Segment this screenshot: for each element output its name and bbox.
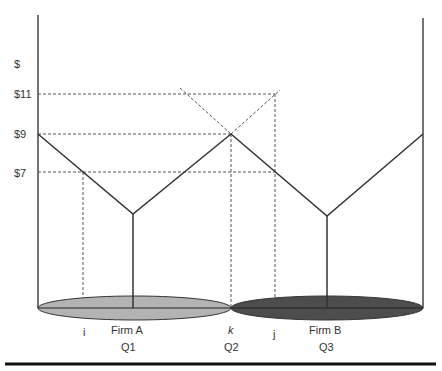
firm-b-left-arm-extension — [180, 88, 231, 134]
label-j: j — [272, 328, 275, 340]
firm-a-price-schedule — [38, 134, 231, 214]
y-axis-label: $ — [14, 58, 20, 70]
firm-b-price-schedule — [231, 134, 423, 216]
price-label-7: $7 — [14, 167, 26, 179]
spatial-competition-diagram: $ $11 $9 $7 i Firm A k j Firm B Q1 Q2 Q3 — [0, 0, 442, 371]
label-q1: Q1 — [121, 341, 136, 353]
firm-a-right-arm-extension — [231, 90, 280, 134]
label-q2: Q2 — [224, 341, 239, 353]
price-label-9: $9 — [14, 128, 26, 140]
label-firm-b: Firm B — [309, 324, 341, 336]
label-firm-a: Firm A — [111, 324, 143, 336]
label-q3: Q3 — [319, 341, 334, 353]
label-k: k — [228, 324, 234, 336]
price-label-11: $11 — [14, 88, 32, 100]
label-i: i — [83, 326, 85, 338]
